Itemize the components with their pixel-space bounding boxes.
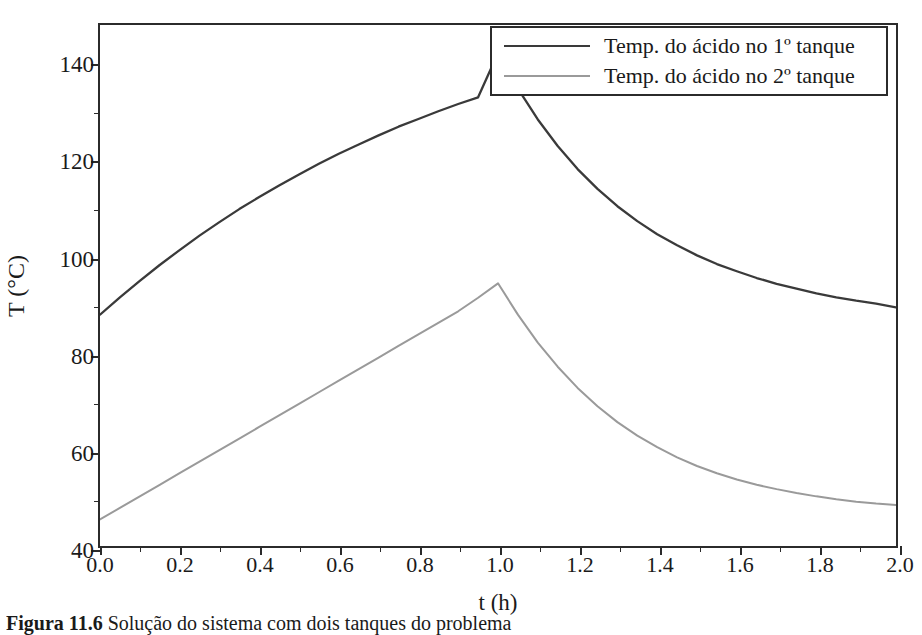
x-tick-minor bbox=[460, 546, 461, 552]
x-tick-label: 1.0 bbox=[486, 554, 514, 576]
x-tick-minor bbox=[860, 546, 861, 552]
legend-label-tank1: Temp. do ácido no 1º tanque bbox=[604, 35, 855, 57]
legend-swatch-tank1 bbox=[504, 45, 590, 47]
x-tick-minor bbox=[380, 546, 381, 552]
figure-caption: Figura 11.6 Solução do sistema com dois … bbox=[6, 612, 916, 635]
x-tick-label: 0.4 bbox=[246, 554, 274, 576]
x-tick-minor bbox=[140, 546, 141, 552]
legend-item-tank2: Temp. do ácido no 2º tanque bbox=[504, 63, 876, 90]
legend-item-tank1: Temp. do ácido no 1º tanque bbox=[504, 33, 876, 60]
x-tick-minor bbox=[620, 546, 621, 552]
legend-swatch-tank2 bbox=[504, 75, 590, 77]
y-tick-minor bbox=[94, 404, 100, 405]
x-tick-label: 2.0 bbox=[886, 554, 914, 576]
y-tick-label: 100 bbox=[60, 247, 95, 270]
x-tick-label: 0.0 bbox=[86, 554, 114, 576]
legend-label-tank2: Temp. do ácido no 2º tanque bbox=[604, 65, 855, 87]
y-tick-label: 120 bbox=[60, 150, 95, 173]
x-tick-label: 1.6 bbox=[726, 554, 754, 576]
y-tick-label: 80 bbox=[71, 344, 94, 367]
y-axis-title: T (°C) bbox=[3, 255, 30, 317]
chart-curves bbox=[100, 25, 896, 546]
y-tick-minor bbox=[94, 307, 100, 308]
figure-caption-body: Solução do sistema com dois tanques do p… bbox=[108, 612, 512, 634]
y-tick-minor bbox=[94, 113, 100, 114]
x-tick-label: 0.6 bbox=[326, 554, 354, 576]
figure-caption-label: Figura 11.6 bbox=[6, 612, 103, 634]
x-tick-minor bbox=[220, 546, 221, 552]
chart-legend: Temp. do ácido no 1º tanque Temp. do áci… bbox=[490, 26, 888, 96]
series-line-2 bbox=[100, 283, 896, 519]
y-tick-minor bbox=[94, 501, 100, 502]
x-tick-minor bbox=[780, 546, 781, 552]
y-tick-label: 140 bbox=[60, 53, 95, 76]
x-tick-label: 0.2 bbox=[166, 554, 194, 576]
x-tick-label: 0.8 bbox=[406, 554, 434, 576]
x-tick-minor bbox=[700, 546, 701, 552]
x-tick-minor bbox=[300, 546, 301, 552]
x-tick-label: 1.4 bbox=[646, 554, 674, 576]
y-tick-label: 60 bbox=[71, 441, 94, 464]
x-tick-label: 1.2 bbox=[566, 554, 594, 576]
plot-area: 406080100120140 0.00.20.40.60.81.01.21.4… bbox=[98, 23, 898, 548]
x-tick-label: 1.8 bbox=[806, 554, 834, 576]
x-tick-minor bbox=[540, 546, 541, 552]
y-tick-minor bbox=[94, 210, 100, 211]
